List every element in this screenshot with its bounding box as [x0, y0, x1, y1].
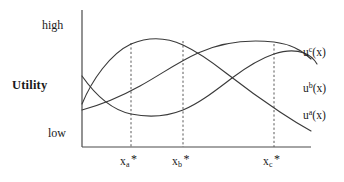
- y-axis-title: Utility: [12, 79, 47, 92]
- x-tick-base: x: [120, 155, 126, 167]
- curve-label-argument: (x): [312, 109, 325, 121]
- x-tick-label-xa: xa*: [120, 153, 137, 169]
- x-tick-star: *: [273, 152, 281, 166]
- x-tick-label-xb: xb*: [172, 153, 190, 169]
- y-tick-label-low: low: [48, 127, 66, 139]
- x-tick-base: x: [263, 155, 269, 167]
- curve-ua: [82, 51, 317, 116]
- x-tick-star: *: [130, 152, 138, 166]
- curve-label-argument: (x): [313, 82, 326, 94]
- y-tick-label-high: high: [42, 19, 63, 31]
- curve-label-ua: ua(x): [303, 109, 326, 122]
- x-tick-star: *: [182, 152, 190, 166]
- curve-label-argument: (x): [312, 46, 325, 58]
- curve-uc: [82, 41, 311, 110]
- x-tick-base: x: [172, 155, 178, 167]
- curve-label-ub: ub(x): [303, 82, 326, 95]
- utility-curves-figure: Utility high low xa* xb* xc* uc(x) ub(x)…: [0, 0, 344, 182]
- curve-label-uc: uc(x): [303, 46, 326, 59]
- x-tick-label-xc: xc*: [263, 153, 280, 169]
